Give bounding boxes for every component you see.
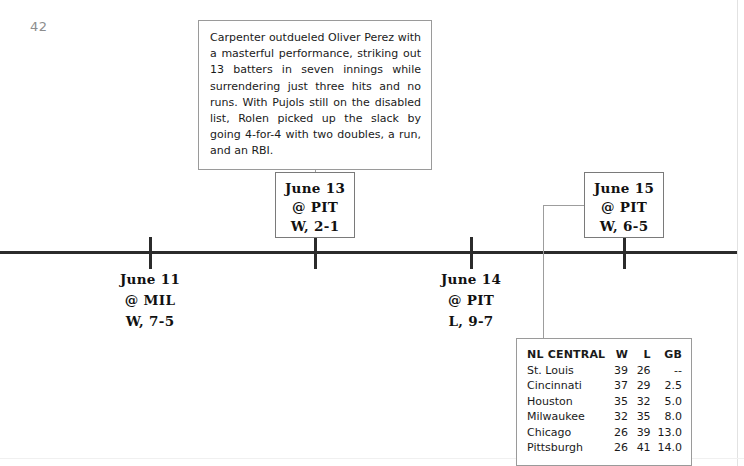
table-row: St. Louis 39 26 --	[527, 363, 682, 379]
timeline-axis	[0, 251, 737, 254]
standings-losses: 32	[628, 394, 651, 410]
standings-body: St. Louis 39 26 -- Cincinnati 37 29 2.5 …	[527, 363, 682, 456]
callout-box: Carpenter outdueled Oliver Perez with a …	[198, 20, 432, 170]
table-row: Milwaukee 32 35 8.0	[527, 409, 682, 425]
standings-wins: 26	[605, 425, 628, 441]
table-row: Houston 35 32 5.0	[527, 394, 682, 410]
standings-wins: 32	[605, 409, 628, 425]
game-result: L, 9-7	[401, 311, 541, 332]
game-date: June 14	[401, 269, 541, 290]
table-row: Cincinnati 37 29 2.5	[527, 378, 682, 394]
standings-losses: 29	[628, 378, 651, 394]
game-opponent: @ PIT	[401, 290, 541, 311]
game-box-june-13[interactable]: June 13 @ PIT W, 2-1	[275, 172, 355, 238]
standings-team: Pittsburgh	[527, 440, 605, 456]
game-opponent: @ PIT	[585, 198, 663, 217]
tick-june-15	[623, 237, 626, 269]
game-opponent: @ MIL	[80, 290, 220, 311]
standings-gb: 5.0	[651, 394, 682, 410]
standings-gb: 2.5	[651, 378, 682, 394]
page-number: 42	[30, 19, 48, 34]
standings-header-wins: W	[605, 347, 628, 363]
standings-table: NL CENTRAL W L GB St. Louis 39 26 -- Cin…	[527, 347, 682, 456]
standings-table-box: NL CENTRAL W L GB St. Louis 39 26 -- Cin…	[516, 338, 692, 466]
game-result: W, 2-1	[276, 217, 354, 236]
standings-team: Houston	[527, 394, 605, 410]
tick-june-14	[470, 237, 473, 269]
standings-gb: 8.0	[651, 409, 682, 425]
callout-text: Carpenter outdueled Oliver Perez with a …	[210, 30, 421, 160]
game-result: W, 6-5	[585, 217, 663, 236]
game-opponent: @ PIT	[276, 198, 354, 217]
table-row: Chicago 26 39 13.0	[527, 425, 682, 441]
standings-connector-vertical	[543, 205, 544, 338]
standings-wins: 39	[605, 363, 628, 379]
standings-wins: 37	[605, 378, 628, 394]
game-date: June 11	[80, 269, 220, 290]
standings-losses: 26	[628, 363, 651, 379]
standings-wins: 26	[605, 440, 628, 456]
page-edge-right	[737, 0, 738, 466]
tick-june-13	[314, 237, 317, 269]
standings-gb: 13.0	[651, 425, 682, 441]
game-label-june-14[interactable]: June 14 @ PIT L, 9-7	[401, 269, 541, 332]
standings-header-division: NL CENTRAL	[527, 347, 605, 363]
standings-team: Chicago	[527, 425, 605, 441]
standings-gb: 14.0	[651, 440, 682, 456]
standings-losses: 39	[628, 425, 651, 441]
standings-team: Milwaukee	[527, 409, 605, 425]
standings-losses: 35	[628, 409, 651, 425]
game-label-june-11[interactable]: June 11 @ MIL W, 7-5	[80, 269, 220, 332]
game-date: June 13	[276, 179, 354, 198]
standings-team: Cincinnati	[527, 378, 605, 394]
standings-header-row: NL CENTRAL W L GB	[527, 347, 682, 363]
game-box-june-15[interactable]: June 15 @ PIT W, 6-5	[584, 172, 664, 238]
standings-gb: --	[651, 363, 682, 379]
standings-losses: 41	[628, 440, 651, 456]
standings-wins: 35	[605, 394, 628, 410]
standings-header-losses: L	[628, 347, 651, 363]
standings-team: St. Louis	[527, 363, 605, 379]
standings-connector-horizontal	[543, 205, 585, 206]
game-result: W, 7-5	[80, 311, 220, 332]
tick-june-11	[149, 237, 152, 269]
game-date: June 15	[585, 179, 663, 198]
table-row: Pittsburgh 26 41 14.0	[527, 440, 682, 456]
standings-header-gb: GB	[651, 347, 682, 363]
timeline-page: 42 Carpenter outdueled Oliver Perez with…	[0, 0, 744, 466]
